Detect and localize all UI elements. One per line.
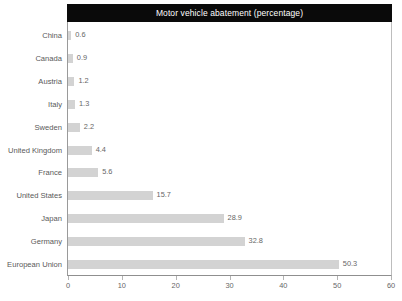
category-label: Japan <box>0 207 62 230</box>
bar-value-label: 0.9 <box>77 53 87 63</box>
x-axis-tick-label: 30 <box>225 281 233 290</box>
bar-value-label: 5.6 <box>102 167 112 177</box>
bar <box>68 77 74 86</box>
bar-row: United States15.7 <box>0 184 402 207</box>
x-axis-tick-label: 50 <box>333 281 341 290</box>
bar-row: Italy1.3 <box>0 93 402 116</box>
x-axis-tick <box>176 276 177 280</box>
bar-value-label: 1.3 <box>79 99 89 109</box>
bar-row: United Kingdom4.4 <box>0 139 402 162</box>
bar-value-label: 2.2 <box>84 122 94 132</box>
category-label: China <box>0 24 62 47</box>
category-label: Germany <box>0 230 62 253</box>
bar-value-label: 15.7 <box>157 190 171 200</box>
x-axis-tick <box>337 276 338 280</box>
chart-title-bar: Motor vehicle abatement (percentage) <box>67 4 392 22</box>
x-axis-tick-label: 60 <box>387 281 395 290</box>
bar <box>68 100 75 109</box>
bar-chart: Motor vehicle abatement (percentage) Chi… <box>0 0 402 301</box>
category-label: France <box>0 161 62 184</box>
x-axis-tick <box>68 276 69 280</box>
x-axis-tick-label: 10 <box>118 281 126 290</box>
x-axis-tick <box>283 276 284 280</box>
category-label: European Union <box>0 253 62 276</box>
bar <box>68 214 224 223</box>
x-axis-tick <box>230 276 231 280</box>
bar-row: Canada0.9 <box>0 47 402 70</box>
category-label: United Kingdom <box>0 139 62 162</box>
bar <box>68 237 245 246</box>
bar <box>68 31 71 40</box>
bar-value-label: 0.6 <box>75 30 85 40</box>
bar-value-label: 32.8 <box>249 236 263 246</box>
x-axis: 0102030405060 <box>0 276 402 301</box>
bar-row: European Union50.3 <box>0 253 402 276</box>
bar-row: France5.6 <box>0 161 402 184</box>
category-label: United States <box>0 184 62 207</box>
x-axis-tick-label: 40 <box>279 281 287 290</box>
bar-row: Sweden2.2 <box>0 116 402 139</box>
bar-value-label: 28.9 <box>228 213 242 223</box>
category-label: Italy <box>0 93 62 116</box>
bar-value-label: 50.3 <box>343 259 357 269</box>
category-label: Austria <box>0 70 62 93</box>
x-axis-tick <box>122 276 123 280</box>
bar-row: Austria1.2 <box>0 70 402 93</box>
bar <box>68 123 80 132</box>
chart-title: Motor vehicle abatement (percentage) <box>156 8 303 18</box>
x-axis-tick <box>391 276 392 280</box>
bar-row: Germany32.8 <box>0 230 402 253</box>
category-label: Canada <box>0 47 62 70</box>
x-axis-tick-label: 20 <box>172 281 180 290</box>
bar-value-label: 1.2 <box>78 76 88 86</box>
x-axis-tick-label: 0 <box>66 281 70 290</box>
category-label: Sweden <box>0 116 62 139</box>
bar-row: Japan28.9 <box>0 207 402 230</box>
bar-row: China0.6 <box>0 24 402 47</box>
bar <box>68 168 98 177</box>
bar <box>68 191 153 200</box>
bar <box>68 54 73 63</box>
bar <box>68 146 92 155</box>
bar <box>68 260 339 269</box>
bar-value-label: 4.4 <box>96 145 106 155</box>
